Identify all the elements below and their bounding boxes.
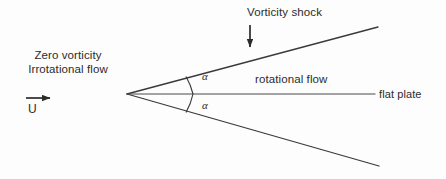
angle-arc-lower <box>186 94 193 113</box>
vorticity-shock-diagram: Zero vorticity Irrotational flow U Vorti… <box>0 0 446 179</box>
upper-shock-line <box>127 27 378 94</box>
rotational-flow-label: rotational flow <box>255 73 327 86</box>
inflow-condition-label: Zero vorticity Irrotational flow <box>8 49 128 76</box>
alpha-upper-label: α <box>202 70 208 82</box>
velocity-label: U <box>28 103 37 116</box>
alpha-lower-label: α <box>202 99 208 111</box>
inflow-label-line-2: Irrotational flow <box>8 63 128 77</box>
inflow-label-line-1: Zero vorticity <box>8 49 128 63</box>
flat-plate-label: flat plate <box>379 88 422 101</box>
lower-shock-line <box>127 94 379 166</box>
vorticity-shock-label: Vorticity shock <box>247 6 322 19</box>
angle-arc-upper <box>186 77 193 95</box>
